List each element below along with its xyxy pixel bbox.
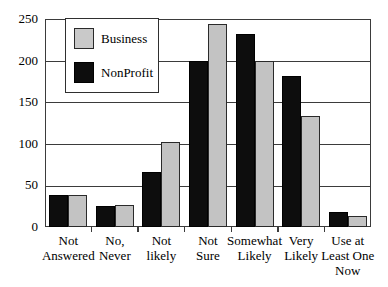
legend-swatch-business [74, 28, 94, 49]
bar-group [189, 19, 227, 227]
x-tick [137, 227, 139, 232]
x-tick-label-line: Least One [316, 248, 379, 263]
x-tick [324, 227, 326, 232]
x-tick [277, 227, 279, 232]
bar-business [115, 205, 134, 227]
x-tick-label-line: Now [316, 263, 379, 278]
x-tick [231, 227, 233, 232]
y-tick-label: 0 [32, 220, 39, 233]
y-tick-label: 200 [19, 54, 39, 67]
y-tick-label: 50 [25, 178, 38, 191]
chart-legend: BusinessNonProfit [65, 18, 159, 93]
bar-business [68, 195, 87, 227]
bar-group [329, 19, 367, 227]
x-tick [91, 227, 93, 232]
y-tick-label: 100 [19, 137, 39, 150]
x-tick [184, 227, 186, 232]
bar-group [236, 19, 274, 227]
y-tick-label: 250 [19, 12, 39, 25]
bar-nonprofit [236, 34, 255, 227]
bar-group [282, 19, 320, 227]
x-tick-label-line: Use at [316, 233, 379, 248]
bar-business [255, 61, 274, 227]
bar-nonprofit [189, 61, 208, 227]
bar-business [348, 216, 367, 227]
x-axis: NotAnsweredNo,NeverNotlikelyNotSureSomew… [45, 233, 371, 287]
bar-nonprofit [49, 195, 68, 227]
bar-nonprofit [282, 76, 301, 227]
bar-business [161, 142, 180, 227]
bar-nonprofit [329, 212, 348, 227]
bar-chart: 050100150200250 NotAnsweredNo,NeverNotli… [0, 0, 388, 287]
bar-business [208, 24, 227, 227]
y-tick-label: 150 [19, 95, 39, 108]
bar-business [301, 116, 320, 227]
legend-swatch-nonprofit [74, 62, 94, 83]
x-tick-label: Use atLeast OneNow [316, 233, 379, 278]
legend-label: NonProfit [101, 65, 153, 80]
x-axis-ticks [45, 227, 371, 232]
bar-nonprofit [96, 206, 115, 227]
bar-nonprofit [142, 172, 161, 227]
legend-label: Business [101, 31, 147, 46]
